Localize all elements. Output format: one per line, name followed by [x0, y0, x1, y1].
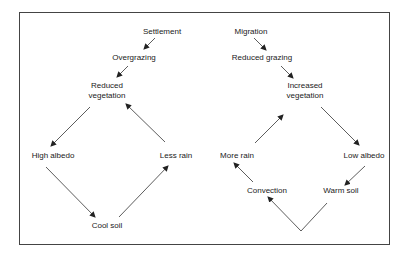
node-settlement: Settlement [143, 27, 181, 37]
arrow-reduced-grazing-increased-vegetation [281, 66, 293, 78]
arrow-overgrazing-reduced-vegetation [117, 66, 128, 77]
arrow-less-rain-reduced-vegetation [126, 104, 165, 142]
arrow-cool-soil-less-rain [119, 166, 168, 217]
node-increased-vegetation: Increased vegetation [287, 81, 324, 101]
node-reduced-grazing: Reduced grazing [232, 53, 292, 63]
node-low-albedo: Low albedo [344, 151, 385, 161]
node-reduced-vegetation-line2: vegetation [89, 91, 126, 101]
arrow-reduced-vegetation-high-albedo [51, 107, 90, 146]
node-reduced-vegetation: Reduced vegetation [89, 81, 126, 101]
node-increased-vegetation-line1: Increased [287, 81, 324, 91]
node-less-rain: Less rain [160, 151, 192, 161]
arrow-increased-vegetation-low-albedo [321, 107, 359, 145]
arrow-low-albedo-warm-soil [345, 166, 365, 185]
arrow-migration-reduced-grazing [254, 38, 266, 50]
node-convection: Convection [247, 186, 287, 196]
arrow-more-rain-increased-vegetation [255, 115, 283, 143]
node-cool-soil: Cool soil [92, 221, 123, 231]
node-high-albedo: High albedo [32, 151, 75, 161]
arrows-layer [0, 0, 410, 257]
node-reduced-vegetation-line1: Reduced [89, 81, 126, 91]
node-more-rain: More rain [220, 151, 254, 161]
node-warm-soil: Warm soil [323, 186, 358, 196]
arrow-warm-soil-convection [268, 197, 327, 231]
arrow-settlement-overgrazing [144, 38, 155, 49]
node-migration: Migration [235, 27, 268, 37]
node-increased-vegetation-line2: vegetation [287, 91, 324, 101]
arrow-convection-more-rain [234, 163, 253, 182]
arrow-high-albedo-cool-soil [46, 167, 95, 217]
node-overgrazing: Overgrazing [112, 53, 156, 63]
